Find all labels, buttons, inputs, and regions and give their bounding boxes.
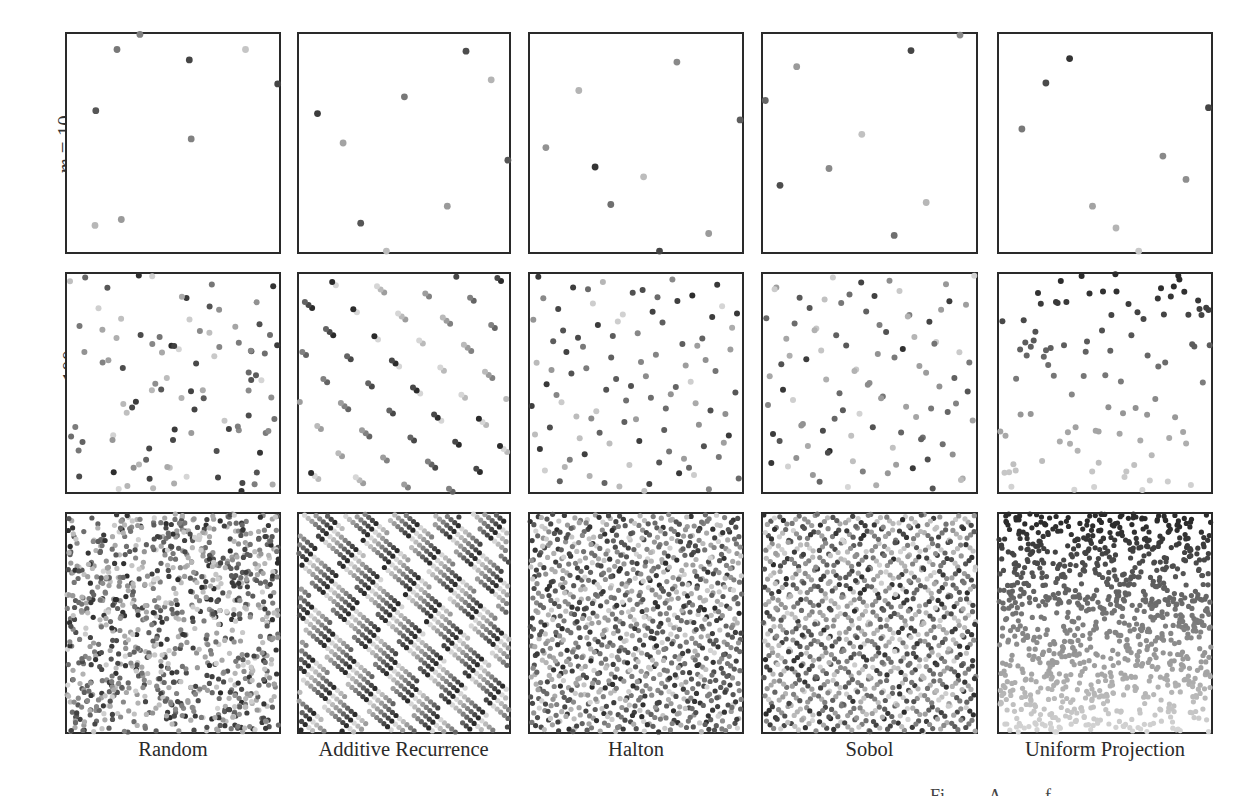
scatter-panel-random-m10 [65, 32, 281, 254]
data-point [214, 599, 219, 604]
data-point [896, 575, 901, 580]
data-point [621, 679, 626, 684]
data-point [711, 660, 716, 665]
data-point [874, 668, 879, 673]
data-point [143, 457, 149, 463]
data-point [826, 526, 831, 531]
data-point [1191, 699, 1196, 704]
data-point [883, 698, 888, 703]
data-point [267, 332, 273, 338]
data-point [603, 577, 608, 582]
data-point [950, 452, 956, 458]
data-point [817, 555, 822, 560]
data-point [157, 702, 162, 707]
data-point [649, 568, 654, 573]
data-point [693, 710, 698, 715]
data-point [734, 311, 740, 317]
data-point [1016, 618, 1021, 623]
data-point [355, 585, 360, 590]
data-point [237, 598, 242, 603]
data-point [299, 719, 304, 724]
data-point [1144, 638, 1149, 643]
data-point [900, 626, 905, 631]
data-point [1012, 634, 1017, 639]
data-point [1074, 552, 1079, 557]
data-point [1097, 547, 1102, 552]
data-point [918, 436, 924, 442]
scatter-panel-uniform-projection-m1000 [997, 512, 1213, 734]
data-point [910, 561, 915, 566]
data-point [801, 552, 806, 557]
data-point [910, 670, 915, 675]
data-point [794, 626, 799, 631]
data-point [1185, 656, 1190, 661]
data-point [951, 375, 957, 381]
data-point [594, 718, 599, 723]
data-point [124, 410, 130, 416]
data-point [1172, 414, 1178, 420]
data-point [1023, 678, 1028, 683]
data-point [1014, 642, 1019, 647]
data-point [96, 642, 101, 647]
data-point [621, 517, 626, 522]
data-point [197, 328, 203, 334]
data-point [616, 524, 621, 529]
data-point [588, 570, 593, 575]
data-point [137, 517, 142, 522]
data-point [1181, 557, 1186, 562]
data-point [733, 595, 738, 600]
data-point [722, 411, 728, 417]
data-point [649, 559, 654, 564]
data-point [803, 725, 808, 730]
data-point [215, 577, 220, 582]
data-point [972, 622, 977, 627]
data-point [1071, 487, 1077, 493]
data-point [640, 287, 646, 293]
data-point [763, 657, 768, 662]
data-point [183, 564, 188, 569]
data-point [869, 530, 874, 535]
data-point [767, 544, 772, 549]
data-point [1011, 582, 1016, 587]
data-point [488, 322, 494, 328]
data-point [773, 606, 778, 611]
data-point [1022, 340, 1028, 346]
data-point [1133, 405, 1139, 411]
data-point [136, 273, 142, 279]
data-point [120, 401, 126, 407]
data-point [179, 703, 184, 708]
data-point [1055, 300, 1061, 306]
data-point [656, 544, 661, 549]
data-point [1168, 651, 1173, 656]
data-point [1041, 560, 1046, 565]
data-point [920, 674, 925, 679]
data-point [1002, 685, 1007, 690]
data-point [935, 543, 940, 548]
data-point [921, 621, 926, 626]
data-point [227, 696, 232, 701]
data-point [962, 625, 967, 630]
data-point [103, 616, 108, 621]
data-point [971, 273, 977, 279]
data-point [1159, 631, 1164, 636]
data-point [720, 530, 725, 535]
data-point [587, 473, 593, 479]
data-point [664, 579, 669, 584]
data-point [816, 656, 821, 661]
data-point [1159, 636, 1164, 641]
data-point [1056, 717, 1061, 722]
data-point [778, 726, 783, 731]
data-point [212, 715, 217, 720]
data-point [1036, 548, 1041, 553]
data-point [654, 643, 659, 648]
data-point [885, 617, 890, 622]
data-point [262, 606, 267, 611]
data-point [714, 513, 719, 518]
data-point [236, 664, 241, 669]
data-point [159, 664, 164, 669]
data-point [1049, 711, 1054, 716]
data-point [804, 542, 809, 547]
data-point [1157, 578, 1162, 583]
data-point [159, 350, 165, 356]
data-point [692, 649, 697, 654]
